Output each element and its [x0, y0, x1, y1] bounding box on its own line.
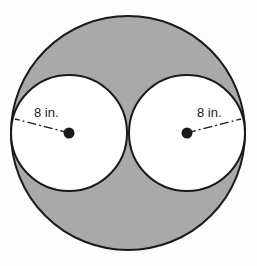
geometry-figure-container: 8 in. 8 in. — [0, 0, 257, 266]
right-radius-label: 8 in. — [197, 105, 222, 120]
left-center-point — [64, 128, 75, 139]
geometry-diagram: 8 in. 8 in. — [0, 0, 257, 266]
right-center-point — [182, 128, 193, 139]
left-radius-label: 8 in. — [34, 105, 59, 120]
